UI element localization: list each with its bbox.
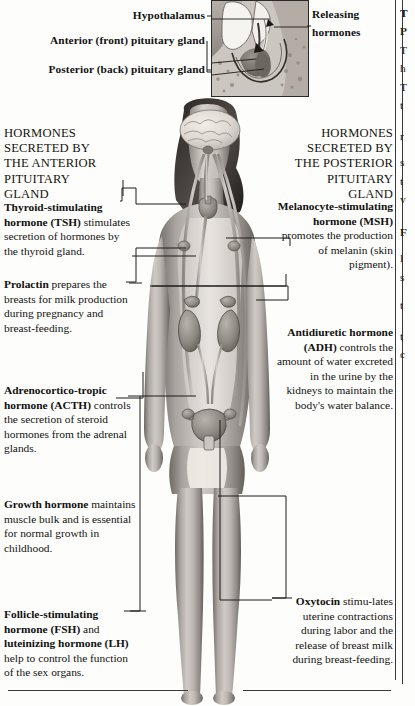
entry-acth: Adrenocortico-tropic hormone (ACTH) cont… <box>4 383 136 456</box>
entry-growth-hormone-term: Growth hormone <box>4 498 88 510</box>
right-heading-line-3: THE POSTERIOR <box>267 156 393 171</box>
left-heading-line-3: THE ANTERIOR <box>4 156 126 171</box>
entry-oxytocin: Oxytocin stimu-lates uterine contraction… <box>273 594 393 667</box>
right-column-heading: HORMONES SECRETED BY THE POSTERIOR PITUI… <box>267 126 393 202</box>
textbook-page: Hypothalamus Anterior (front) pituitary … <box>0 0 415 706</box>
entry-msh-text: promotes the production of melanin (skin… <box>282 229 393 270</box>
right-heading-line-2: SECRETED BY <box>267 141 393 156</box>
footer-rule-right <box>243 690 391 691</box>
female-endocrine-figure <box>128 96 286 706</box>
left-heading-line-4: PITUITARY <box>4 172 126 187</box>
adjacent-page-column-fragment: T P T h T t r s t v F l s t t c <box>400 0 415 706</box>
footer-rule-left <box>8 690 188 691</box>
column-divider-rule <box>395 0 396 680</box>
entry-prolactin: Prolactin prepares the breasts for milk … <box>4 277 136 335</box>
left-column-heading: HORMONES SECRETED BY THE ANTERIOR PITUIT… <box>4 126 126 202</box>
entry-prolactin-term: Prolactin <box>4 278 49 290</box>
entry-adh: Antidiuretic hormone (ADH) controls the … <box>273 325 393 412</box>
entry-tsh: Thyroid-stimulating hormone (TSH) stimul… <box>4 200 136 258</box>
entry-oxytocin-term: Oxytocin <box>296 595 340 607</box>
entry-msh: Melanocyte-stimulating hormone (MSH) pro… <box>273 199 393 272</box>
entry-growth-hormone: Growth hormone maintains muscle bulk and… <box>4 497 136 555</box>
entry-msh-term: Melanocyte-stimulating hormone (MSH) <box>278 200 393 227</box>
right-heading-line-4: PITUITARY <box>267 172 393 187</box>
left-heading-line-2: SECRETED BY <box>4 141 126 156</box>
entry-fsh-lh-term2: luteinizing hormone (LH) <box>4 637 129 649</box>
entry-fsh-lh: Follicle-stimulating hormone (FSH) and l… <box>4 607 136 680</box>
body-illustration <box>128 96 286 706</box>
right-heading-line-1: HORMONES <box>267 126 393 141</box>
entry-fsh-lh-mid: and <box>80 623 99 635</box>
left-heading-line-1: HORMONES <box>4 126 126 141</box>
entry-fsh-lh-text: help to control the function of the sex … <box>4 652 128 679</box>
top-leader-lines <box>0 0 415 110</box>
